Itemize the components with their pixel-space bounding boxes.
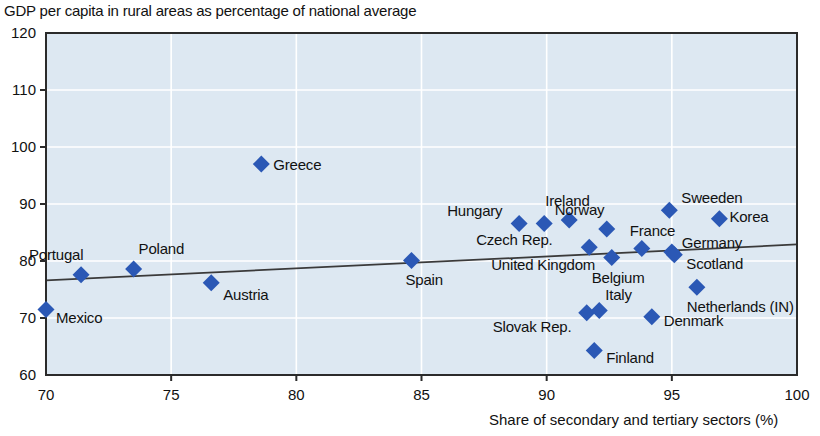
point-label: Slovak Rep. (493, 318, 572, 335)
x-tick-label: 75 (151, 386, 191, 403)
y-tick-label: 70 (2, 309, 36, 326)
point-label: Mexico (56, 309, 102, 326)
y-tick-label: 110 (2, 81, 36, 98)
point-label: Sweeden (681, 189, 742, 206)
x-tick-label: 85 (402, 386, 442, 403)
chart-figure: GDP per capita in rural areas as percent… (0, 0, 820, 436)
point-label: Belgium (592, 269, 645, 286)
x-tick-label: 80 (276, 386, 316, 403)
x-tick-label: 70 (26, 386, 66, 403)
point-label: Greece (273, 156, 321, 173)
point-label: Czech Rep. (476, 231, 552, 248)
x-axis-title: Share of secondary and tertiary sectors … (489, 411, 778, 428)
point-label: Italy (605, 286, 632, 303)
x-tick-label: 90 (527, 386, 567, 403)
point-label: Spain (405, 271, 442, 288)
point-label: Finland (606, 349, 654, 366)
point-label: Poland (139, 240, 185, 257)
point-label: Norway (555, 201, 605, 218)
point-label: Scotland (686, 255, 743, 272)
point-label: Korea (729, 208, 768, 225)
y-tick-label: 90 (2, 195, 36, 212)
x-tick-label: 100 (777, 386, 817, 403)
point-label: France (630, 222, 676, 239)
x-tick-label: 95 (652, 386, 692, 403)
point-label: Netherlands (IN) (687, 298, 794, 315)
y-tick-label: 60 (2, 366, 36, 383)
scatter-plot (0, 0, 820, 436)
y-tick-label: 80 (2, 252, 36, 269)
point-label: Germany (682, 234, 742, 251)
point-label: Portugal (29, 246, 83, 263)
point-label: United Kingdom (491, 256, 595, 273)
point-label: Austria (223, 286, 268, 303)
y-tick-label: 100 (2, 138, 36, 155)
y-tick-label: 120 (2, 24, 36, 41)
point-label: Hungary (447, 202, 502, 219)
